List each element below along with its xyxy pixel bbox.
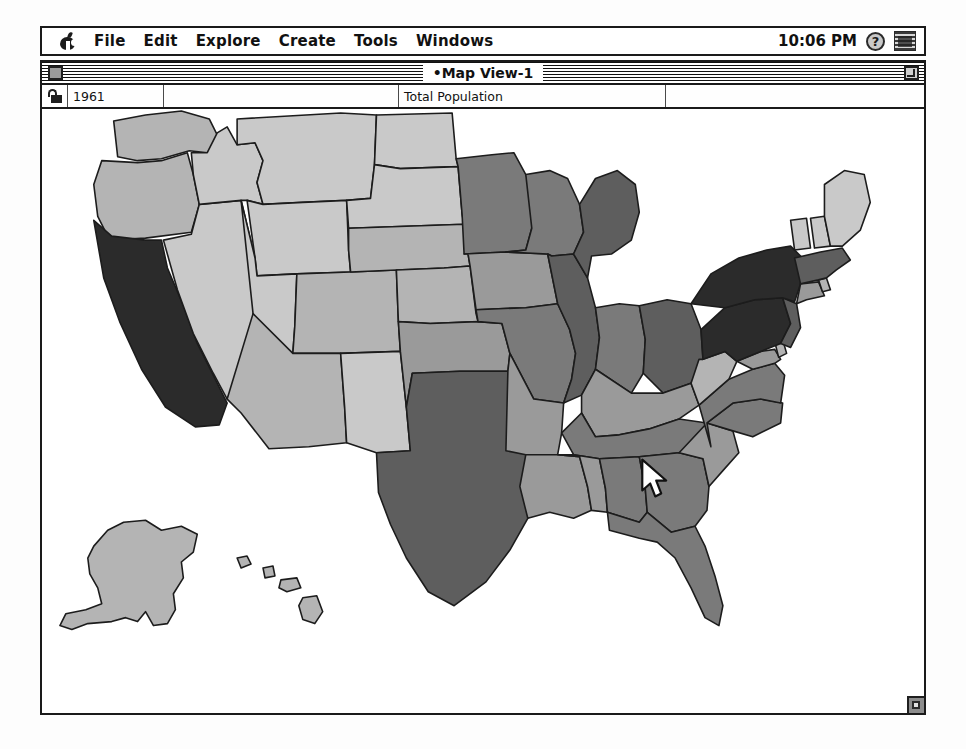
close-box-icon[interactable] <box>48 66 63 80</box>
padlock-icon <box>47 89 62 103</box>
map-region-ny[interactable]: New York <box>691 246 804 308</box>
map-region-ks[interactable]: Kansas <box>396 266 478 324</box>
window-title-bar[interactable]: •Map View-1 <box>42 62 924 85</box>
menu-bar-clock[interactable]: 10:06 PM <box>778 32 857 50</box>
apple-menu-button[interactable] <box>42 33 85 50</box>
apple-logo-icon <box>60 33 75 50</box>
data-layer-field[interactable]: Total Population <box>399 85 666 107</box>
map-region-nd[interactable]: North Dakota <box>374 113 458 169</box>
map-region-hi-1[interactable] <box>237 556 251 568</box>
menu-item-explore[interactable]: Explore <box>187 34 270 49</box>
window-title-label: •Map View-1 <box>423 65 544 81</box>
menu-item-create[interactable]: Create <box>270 34 345 49</box>
map-region-ne[interactable]: Nebraska <box>349 224 470 272</box>
map-region-hi-4[interactable] <box>299 596 323 624</box>
map-region-hi-3[interactable] <box>279 578 301 592</box>
menu-item-file[interactable]: File <box>85 34 135 49</box>
application-switcher-icon[interactable] <box>894 31 916 51</box>
map-canvas[interactable]: WashingtonOregonCaliforniaNevadaIdahoMon… <box>42 109 924 713</box>
screen: File Edit Explore Create Tools Windows 1… <box>0 0 966 749</box>
map-region-mi[interactable]: Michigan <box>574 171 640 278</box>
map-region-or[interactable]: Oregon <box>94 153 200 240</box>
map-region-ma[interactable]: Massachusetts <box>795 248 851 284</box>
year-field[interactable]: 1961 <box>68 85 164 107</box>
map-region-mn[interactable]: Minnesota <box>456 153 536 254</box>
menu-bar-status-area: 10:06 PM ? <box>778 31 924 51</box>
map-region-ak[interactable] <box>60 520 197 629</box>
toolbar-field-4[interactable] <box>666 85 924 107</box>
lock-toggle-button[interactable] <box>42 85 68 107</box>
map-region-ia[interactable]: Iowa <box>464 252 558 310</box>
map-region-me[interactable]: Maine <box>824 171 870 247</box>
map-toolbar: 1961 Total Population <box>42 85 924 109</box>
menu-bar: File Edit Explore Create Tools Windows 1… <box>40 26 926 56</box>
menu-item-windows[interactable]: Windows <box>407 34 503 49</box>
menu-item-edit[interactable]: Edit <box>135 34 187 49</box>
us-choropleth-map: WashingtonOregonCaliforniaNevadaIdahoMon… <box>42 109 924 713</box>
resize-grip-icon[interactable] <box>907 696 924 713</box>
menu-item-tools[interactable]: Tools <box>345 34 407 49</box>
map-region-wy[interactable]: Wyoming <box>247 200 351 275</box>
map-region-nm[interactable]: New Mexico <box>341 351 411 452</box>
window-title: •Map View-1 <box>42 65 924 81</box>
map-region-hi-2[interactable] <box>263 566 275 578</box>
zoom-box-icon[interactable] <box>904 66 919 80</box>
toolbar-field-2[interactable] <box>164 85 399 107</box>
map-view-window: •Map View-1 1961 Total Population Washin… <box>40 60 926 715</box>
map-region-vt[interactable]: Vermont <box>791 218 811 250</box>
map-region-fl[interactable]: Florida <box>607 512 722 625</box>
map-region-co[interactable]: Colorado <box>293 270 401 353</box>
help-question-icon[interactable]: ? <box>866 32 885 51</box>
